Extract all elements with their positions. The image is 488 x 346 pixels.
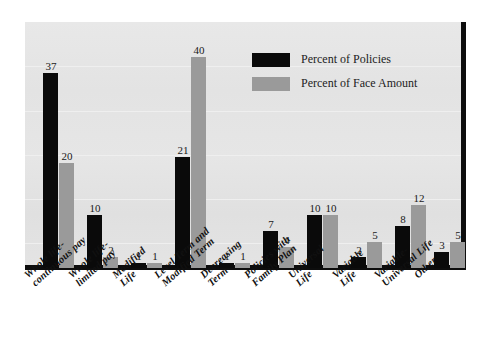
bar — [43, 73, 58, 268]
chart-legend: Percent of PoliciesPercent of Face Amoun… — [252, 52, 427, 100]
legend-swatch — [252, 77, 290, 91]
bar-group: 102 — [87, 22, 119, 268]
legend-swatch — [252, 53, 290, 67]
legend-label: Percent of Face Amount — [301, 76, 417, 91]
bar-value-label: 5 — [445, 229, 471, 241]
bar-value-label: 12 — [406, 192, 432, 204]
bar-group: 35 — [434, 22, 466, 268]
bar-group: 11 — [219, 22, 251, 268]
legend-label: Percent of Policies — [301, 52, 391, 67]
bar-value-label: 10 — [82, 202, 108, 214]
bar-value-label: 7 — [258, 218, 284, 230]
bar-value-label: 20 — [54, 150, 80, 162]
bar — [450, 242, 465, 268]
bar-value-label: 37 — [38, 60, 64, 72]
bar-value-label: 5 — [362, 229, 388, 241]
bar-value-label: 40 — [186, 44, 212, 56]
bar-chart: 3720102112140117410102581235 Percent of … — [0, 0, 488, 346]
bar-value-label: 10 — [318, 202, 344, 214]
legend-item: Percent of Face Amount — [252, 76, 427, 91]
legend-item: Percent of Policies — [252, 52, 427, 67]
category-axis-labels: Whole life-continuous payWhole life-limi… — [0, 268, 488, 346]
bar-group: 11 — [131, 22, 163, 268]
